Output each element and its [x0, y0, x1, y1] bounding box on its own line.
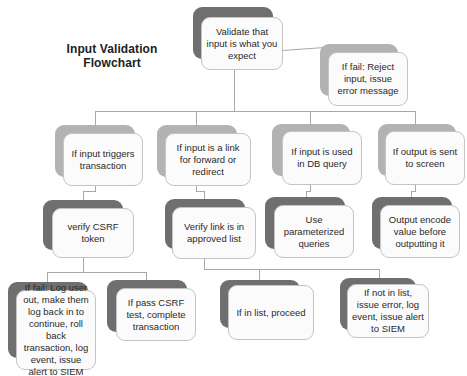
connector-branch-4: [415, 111, 416, 125]
connector-csrf-down: [83, 258, 84, 272]
node-csrf-pass-box: If pass CSRF test, complete transaction: [116, 288, 196, 341]
connector-branch-1: [95, 111, 96, 125]
connector-csrf-h: [47, 272, 147, 273]
node-in-list-box: If in list, proceed: [228, 285, 314, 340]
node-transaction-box: If input triggers transaction: [63, 133, 143, 186]
node-reject-box: If fail: Reject input, issue error messa…: [328, 52, 408, 106]
node-parameterized-box: Use parameterized queries: [274, 205, 354, 258]
page-title: Input Validation Flowchart: [62, 42, 162, 70]
node-db-query-box: If input is used in DB query: [282, 131, 362, 185]
title-line-1: Input Validation: [62, 42, 162, 56]
node-screen-output-box: If output is sent to screen: [385, 131, 465, 185]
node-verify-link-box: Verify link is in approved list: [172, 207, 256, 259]
connector-branch-3: [310, 111, 311, 125]
connector-r2-r3-1b: [83, 191, 96, 192]
title-line-2: Flowchart: [62, 56, 162, 70]
node-output-encode-box: Output encode value before outputting it: [380, 205, 460, 258]
connector-root-down: [234, 69, 235, 112]
node-redirect-box: If input is a link for forward or redire…: [165, 133, 251, 186]
node-csrf-fail-box: If fail: Log user out, make them log bac…: [16, 290, 96, 370]
connector-branch-h: [95, 111, 415, 112]
node-verify-csrf-box: verify CSRF token: [52, 208, 134, 258]
node-not-in-list-box: If not in list, issue error, log event, …: [347, 284, 429, 338]
connector-link-down: [204, 258, 205, 269]
connector-branch-2: [196, 111, 197, 125]
connector-link-h: [204, 269, 379, 270]
node-root-box: Validate that input is what you expect: [201, 17, 283, 70]
connector-r2-r3-1c: [83, 191, 84, 200]
connector-r2-r3-2b: [196, 191, 204, 192]
